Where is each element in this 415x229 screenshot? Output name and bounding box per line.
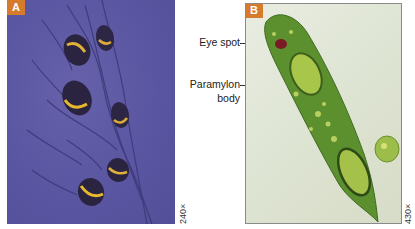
micrograph-panel-b: B (245, 3, 402, 224)
panel-b-badge: B (245, 3, 263, 18)
euglena-cell-image (246, 4, 402, 224)
eye-spot-label: Eye spot (185, 36, 240, 49)
panel-b-magnification: 430× (403, 204, 413, 224)
paramylon-label-line1: Paramylon (180, 78, 240, 91)
micrograph-panel-a: A (7, 0, 175, 224)
panel-a-badge: A (7, 0, 25, 15)
paramylon-label-line2: body (180, 92, 240, 105)
euglenoid-cells-image (7, 0, 175, 224)
panel-a-magnification: 240× (178, 204, 188, 224)
